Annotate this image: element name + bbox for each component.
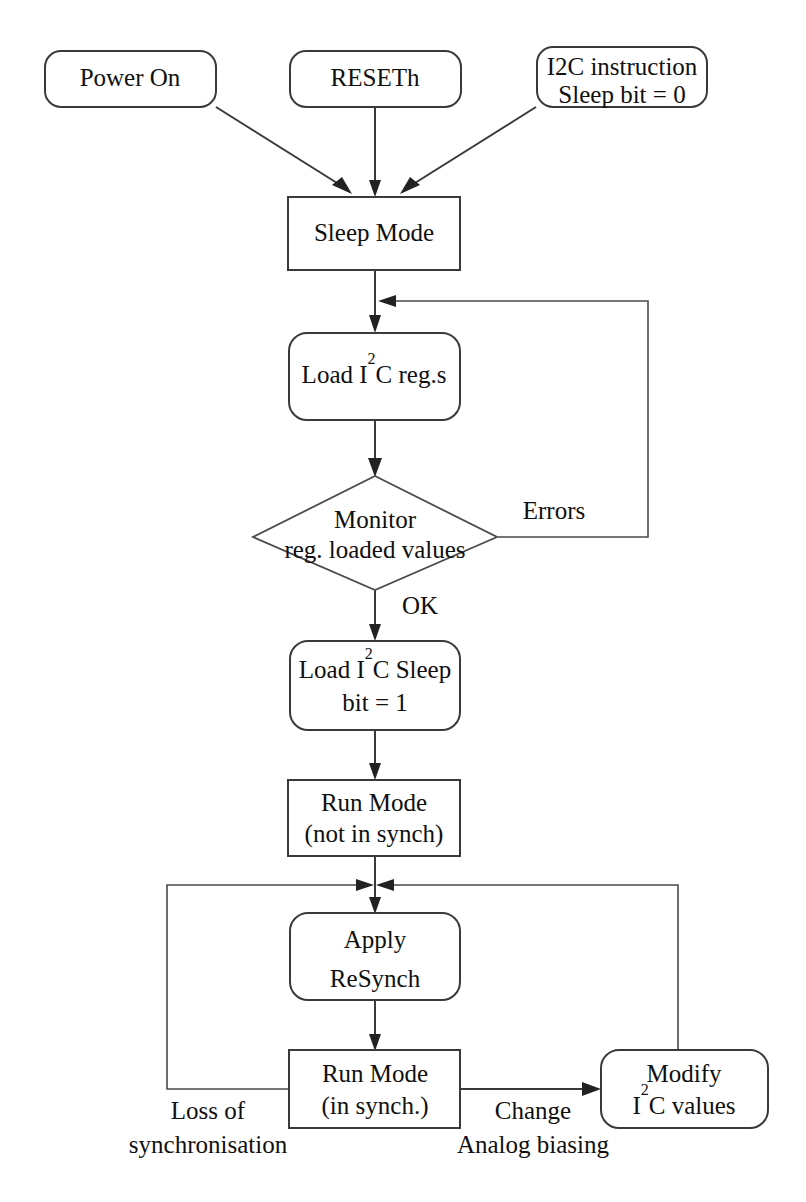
edge-label-ok: OK bbox=[402, 592, 438, 619]
node-reseth[interactable]: RESETh bbox=[290, 51, 461, 107]
edge-load-regs-to-monitor bbox=[368, 420, 382, 477]
node-power-on[interactable]: Power On bbox=[45, 51, 216, 107]
node-monitor-label-line1: Monitor bbox=[334, 506, 417, 533]
edge-i2c-instruction-to-sleep-mode bbox=[400, 107, 536, 194]
node-sleep-mode[interactable]: Sleep Mode bbox=[288, 197, 460, 270]
node-load-sleep-sup: 2 bbox=[365, 645, 373, 662]
node-load-i2c-regs[interactable]: Load I2C reg.s bbox=[289, 333, 460, 420]
node-modify-line1: Modify bbox=[647, 1060, 723, 1087]
edge-monitor-ok-to-load-sleep bbox=[369, 590, 381, 641]
node-apply-resynch-line2: ReSynch bbox=[330, 965, 421, 992]
edge-label-errors: Errors bbox=[523, 497, 585, 524]
edge-label-change-line2: Analog biasing bbox=[457, 1131, 610, 1158]
node-reseth-label: RESETh bbox=[331, 64, 420, 91]
node-run-mode-in-synch-line2: (in synch.) bbox=[322, 1092, 429, 1120]
node-modify-sup: 2 bbox=[641, 1081, 649, 1098]
node-modify-pre: I bbox=[632, 1092, 640, 1119]
flowchart-canvas: Power On RESETh I2C instruction Sleep bi… bbox=[0, 0, 806, 1202]
node-apply-resynch-line1: Apply bbox=[344, 926, 407, 953]
edge-sleep-mode-to-load-regs bbox=[369, 270, 381, 333]
node-i2c-instruction-label-line1: I2C instruction bbox=[547, 53, 698, 80]
node-load-sleep-post: C Sleep bbox=[373, 656, 451, 683]
edge-label-loss-line1: Loss of bbox=[171, 1097, 246, 1124]
edge-load-sleep-to-run-mode-not-synch bbox=[369, 730, 381, 780]
node-monitor-label-line2: reg. loaded values bbox=[284, 536, 465, 563]
node-load-i2c-sleep-bit[interactable]: Load I2C Sleep bit = 1 bbox=[290, 641, 460, 730]
node-run-mode-in-synch[interactable]: Run Mode (in synch.) bbox=[289, 1050, 460, 1128]
flowchart-page: Power On RESETh I2C instruction Sleep bi… bbox=[0, 0, 806, 1202]
node-run-mode-in-synch-line1: Run Mode bbox=[322, 1060, 428, 1087]
node-run-mode-not-in-synch-line2: (not in synch) bbox=[305, 820, 444, 848]
node-load-i2c-regs-pre: Load I bbox=[302, 361, 368, 388]
node-i2c-instruction-label-line2: Sleep bit = 0 bbox=[558, 81, 685, 108]
edge-reseth-to-sleep-mode bbox=[369, 107, 381, 197]
edge-apply-resynch-to-run-mode-in-synch bbox=[369, 999, 381, 1051]
node-load-i2c-regs-post: C reg.s bbox=[376, 361, 447, 388]
node-sleep-mode-label: Sleep Mode bbox=[314, 219, 434, 246]
node-modify-post: C values bbox=[649, 1092, 736, 1119]
node-load-i2c-regs-sup: 2 bbox=[368, 350, 376, 367]
node-apply-resynch[interactable]: Apply ReSynch bbox=[290, 913, 460, 1000]
edge-run-mode-in-synch-to-modify bbox=[460, 1082, 601, 1096]
node-run-mode-not-in-synch[interactable]: Run Mode (not in synch) bbox=[288, 780, 460, 856]
node-modify-i2c-values[interactable]: Modify I2C values bbox=[601, 1050, 768, 1128]
node-run-mode-not-in-synch-line1: Run Mode bbox=[321, 789, 427, 816]
edge-label-loss-line2: synchronisation bbox=[129, 1131, 288, 1158]
node-monitor-decision[interactable]: Monitor reg. loaded values bbox=[253, 476, 497, 590]
node-load-sleep-pre: Load I bbox=[299, 656, 365, 683]
node-i2c-instruction[interactable]: I2C instruction Sleep bit = 0 bbox=[537, 47, 707, 108]
node-power-on-label: Power On bbox=[80, 64, 181, 91]
edge-power-on-to-sleep-mode bbox=[216, 107, 352, 194]
edge-label-change-line1: Change bbox=[495, 1097, 571, 1124]
node-load-i2c-sleep-label-line2: bit = 1 bbox=[342, 689, 408, 716]
